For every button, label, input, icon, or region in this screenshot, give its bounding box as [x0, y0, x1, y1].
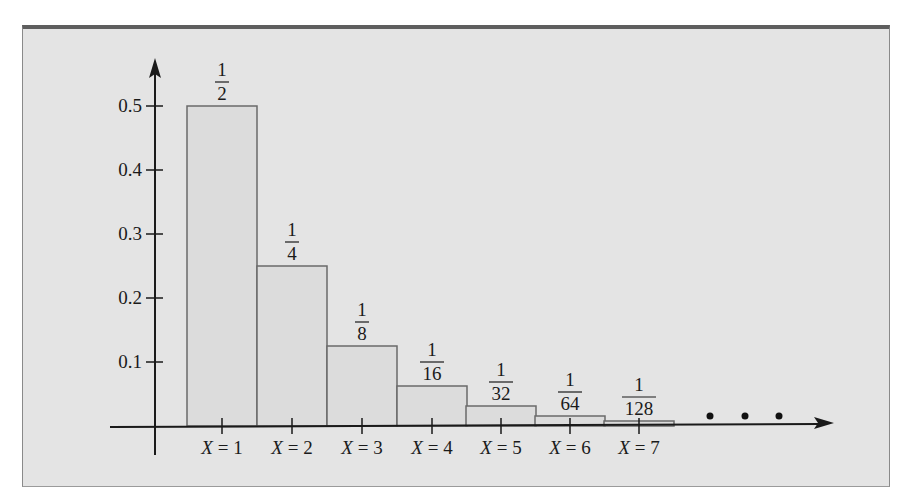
fraction-denominator: 4	[287, 243, 297, 264]
x-axis-arrow-icon	[814, 417, 834, 429]
fraction-label: 18	[355, 299, 369, 344]
bar	[187, 106, 257, 426]
ellipsis-dot-icon	[742, 413, 749, 420]
fraction-label: 116	[420, 339, 444, 384]
fraction-label: 132	[489, 359, 513, 404]
y-tick-label: 0.5	[118, 95, 142, 116]
continuation-dots	[707, 413, 783, 420]
y-tick-label: 0.1	[118, 351, 142, 372]
fraction-denominator: 16	[423, 363, 442, 384]
x-tick-label: X = 3	[340, 437, 382, 458]
fraction-denominator: 64	[561, 393, 581, 414]
x-tick-label: X = 7	[617, 437, 659, 458]
fraction-label: 14	[285, 219, 299, 264]
x-tick-label: X = 5	[479, 437, 521, 458]
bar-chart: 0.10.20.30.40.5 X = 1X = 2X = 3X = 4X = …	[0, 0, 906, 503]
fraction-denominator: 2	[217, 83, 227, 104]
fraction-label: 164	[558, 369, 582, 414]
fraction-label: 1128	[622, 374, 656, 419]
x-tick-label: X = 4	[410, 437, 453, 458]
fraction-label: 12	[215, 59, 229, 104]
bar	[327, 346, 397, 426]
fraction-numerator: 1	[287, 219, 297, 240]
bar	[257, 266, 327, 426]
y-tick-label: 0.4	[118, 159, 142, 180]
fraction-numerator: 1	[217, 59, 227, 80]
ellipsis-dot-icon	[707, 413, 714, 420]
y-ticks-group: 0.10.20.30.40.5	[118, 95, 163, 372]
x-tick-label: X = 2	[270, 437, 312, 458]
fraction-denominator: 32	[492, 383, 511, 404]
ellipsis-dot-icon	[776, 413, 783, 420]
y-tick-label: 0.2	[118, 287, 142, 308]
fraction-denominator: 128	[625, 398, 654, 419]
x-tick-label: X = 6	[548, 437, 590, 458]
fraction-denominator: 8	[357, 323, 367, 344]
fraction-numerator: 1	[565, 369, 575, 390]
fraction-numerator: 1	[496, 359, 506, 380]
fraction-numerator: 1	[634, 374, 644, 395]
fraction-numerator: 1	[427, 339, 437, 360]
y-tick-label: 0.3	[118, 223, 142, 244]
x-tick-label: X = 1	[200, 437, 242, 458]
fraction-numerator: 1	[357, 299, 367, 320]
